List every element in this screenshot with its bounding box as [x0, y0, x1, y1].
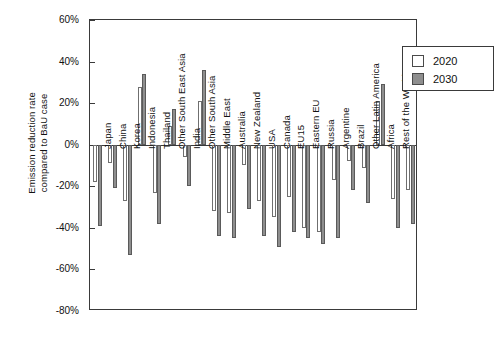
bar-2030	[321, 145, 325, 245]
bar-2020	[332, 145, 336, 180]
y-tick	[90, 103, 95, 104]
y-tick	[90, 228, 95, 229]
category-label: Brazil	[355, 124, 366, 148]
category-label: Other South Asia	[206, 75, 217, 148]
bar-2030	[247, 145, 251, 209]
category-label: Africa	[385, 124, 396, 149]
bar-2020	[93, 145, 97, 182]
bar-2020	[302, 145, 306, 228]
bar-2030	[292, 145, 296, 232]
bar-2020	[317, 145, 321, 232]
y-tick-label: -40%	[56, 221, 79, 232]
category-label: Other Latin America	[370, 63, 381, 149]
bar-2020	[227, 145, 231, 214]
bar-2020	[257, 145, 261, 201]
category-label: USA	[266, 129, 277, 149]
plot-area: JapanChinaKoreaIndonesiaThailandOther So…	[89, 19, 417, 310]
bar-2030	[232, 145, 236, 239]
category-label: Japan	[102, 122, 113, 148]
legend-swatch-2030-icon	[412, 73, 424, 85]
y-tick-label: -60%	[56, 263, 79, 274]
category-label: India	[191, 128, 202, 149]
legend-swatch-2020-icon	[412, 55, 424, 67]
category-label: Russia	[325, 119, 336, 149]
bar-2030	[306, 145, 310, 239]
y-tick-label: -20%	[56, 180, 79, 191]
y-tick	[90, 20, 95, 21]
category-label: Korea	[131, 123, 142, 149]
y-tick	[90, 186, 95, 187]
bar-2020	[406, 145, 410, 191]
y-tick-label: 60%	[59, 14, 79, 25]
bar-2020	[212, 145, 216, 212]
bar-2020	[391, 145, 395, 199]
legend-label-2020: 2020	[433, 55, 457, 67]
category-label: Other South East Asia	[176, 53, 187, 149]
y-axis-tick-labels: 60%40%20%0%-20%-40%-60%-80%	[0, 19, 86, 310]
legend-label-2030: 2030	[433, 73, 457, 85]
bar-2030	[396, 145, 400, 228]
bar-2030	[336, 145, 340, 239]
bar-2030	[262, 145, 266, 236]
bar-2030	[217, 145, 221, 236]
bar-2030	[157, 145, 161, 224]
legend-item-2020: 2020	[412, 52, 493, 70]
bar-2020	[153, 145, 157, 193]
category-label: Middle East	[221, 98, 232, 149]
bar-2030	[351, 145, 355, 191]
legend-item-2030: 2030	[412, 70, 493, 88]
category-label: Australia	[236, 111, 247, 149]
y-tick-label: 0%	[65, 138, 79, 149]
bar-2030	[98, 145, 102, 226]
y-tick-label: 40%	[59, 55, 79, 66]
bar-2030	[277, 145, 281, 247]
bar-2030	[411, 145, 415, 224]
bar-2030	[113, 145, 117, 189]
y-tick-label: 20%	[59, 97, 79, 108]
bar-2020	[123, 145, 127, 201]
category-label: Eastern EU	[310, 99, 321, 149]
bar-2030	[128, 145, 132, 255]
category-label: New Zealand	[251, 92, 262, 149]
category-label: Indonesia	[146, 107, 157, 149]
bar-2020	[272, 145, 276, 218]
category-label: EU15	[295, 125, 306, 149]
bar-2030	[187, 145, 191, 187]
plot-inner: JapanChinaKoreaIndonesiaThailandOther So…	[90, 20, 416, 309]
category-label: World	[415, 124, 416, 149]
y-tick	[90, 269, 95, 270]
y-tick	[90, 62, 95, 63]
category-label: Argentine	[340, 107, 351, 149]
bar-2020	[287, 145, 291, 197]
bar-2030	[366, 145, 370, 203]
y-tick-label: -80%	[56, 305, 79, 316]
category-label: Thailand	[161, 111, 172, 148]
chart-legend: 2020 2030	[402, 46, 494, 91]
category-label: China	[117, 123, 128, 148]
category-label: Canada	[281, 115, 292, 149]
